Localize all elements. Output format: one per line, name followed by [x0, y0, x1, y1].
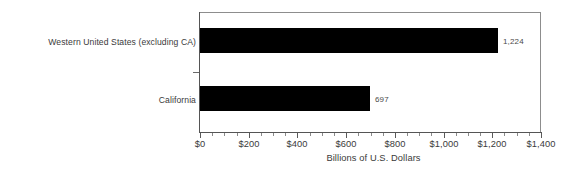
bar-chart: Western United States (excluding CA) Cal…: [0, 0, 587, 172]
x-tick-label: $200: [238, 139, 259, 149]
bar-value-label-western-united-states: 1,224: [503, 37, 524, 46]
x-tick-major: [297, 133, 298, 138]
x-tick-major: [492, 133, 493, 138]
x-tick-label: $400: [286, 139, 307, 149]
x-tick-minor: [261, 133, 262, 136]
x-tick-major: [395, 133, 396, 138]
x-tick-major: [541, 133, 542, 138]
x-tick-minor: [334, 133, 335, 136]
x-tick-major: [346, 133, 347, 138]
x-tick-minor: [431, 133, 432, 136]
x-tick-minor: [383, 133, 384, 136]
x-tick-label: $800: [384, 139, 405, 149]
x-tick-label: $600: [335, 139, 356, 149]
x-tick-minor: [468, 133, 469, 136]
x-tick-minor: [224, 133, 225, 136]
x-axis-title: Billions of U.S. Dollars: [0, 153, 587, 163]
x-tick-label: $0: [195, 139, 206, 149]
x-tick-major: [249, 133, 250, 138]
y-axis-tick: [193, 72, 199, 73]
x-tick-minor: [322, 133, 323, 136]
x-tick-minor: [517, 133, 518, 136]
category-label-california: California: [159, 95, 196, 106]
x-tick-minor: [371, 133, 372, 136]
x-tick-minor: [358, 133, 359, 136]
x-tick-minor: [480, 133, 481, 136]
x-tick-minor: [456, 133, 457, 136]
x-tick-minor: [285, 133, 286, 136]
x-tick-major: [200, 133, 201, 138]
x-tick-minor: [419, 133, 420, 136]
bar-value-label-california: 697: [375, 95, 389, 104]
x-tick-label: $1,400: [527, 139, 556, 149]
x-tick-minor: [529, 133, 530, 136]
x-tick-minor: [273, 133, 274, 136]
x-tick-major: [444, 133, 445, 138]
x-axis-title-text: Billions of U.S. Dollars: [326, 153, 420, 163]
bar-california: [200, 86, 370, 111]
x-tick-label: $1,200: [478, 139, 507, 149]
category-label-western-united-states: Western United States (excluding CA): [48, 37, 196, 48]
x-tick-minor: [212, 133, 213, 136]
bar-western-united-states: [200, 28, 498, 53]
x-tick-minor: [237, 133, 238, 136]
x-tick-label: $1,000: [430, 139, 459, 149]
x-tick-minor: [310, 133, 311, 136]
x-tick-minor: [407, 133, 408, 136]
x-tick-minor: [504, 133, 505, 136]
